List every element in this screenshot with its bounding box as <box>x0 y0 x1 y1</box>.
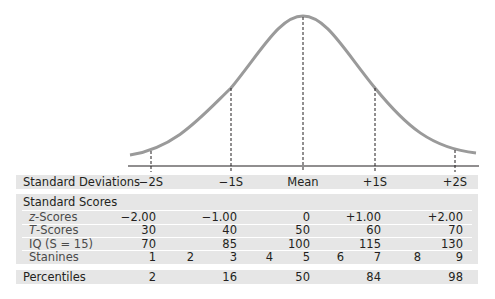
std-dev-value: −1S <box>201 176 261 189</box>
std-dev-value: Mean <box>273 176 333 189</box>
row-separator <box>22 224 472 225</box>
std-dev-value: −2S <box>121 176 181 189</box>
t-score-value: 70 <box>413 224 463 237</box>
percentile-value: 16 <box>187 271 237 284</box>
row-separator <box>22 210 472 211</box>
percentiles-label: Percentiles <box>23 271 86 284</box>
percentile-value: 50 <box>260 271 310 284</box>
t-score-value: 30 <box>106 224 156 237</box>
t-scores-label: T-Scores <box>29 224 78 237</box>
std-dev-value: +1S <box>345 176 405 189</box>
percentile-value: 2 <box>106 271 156 284</box>
t-score-value: 40 <box>187 224 237 237</box>
stanines-label: Stanines <box>29 251 79 264</box>
t-score-value: 60 <box>331 224 381 237</box>
standard-scores-heading: Standard Scores <box>23 196 117 209</box>
stanine-value: 9 <box>413 251 463 264</box>
percentile-value: 98 <box>413 271 463 284</box>
percentile-value: 84 <box>331 271 381 284</box>
std-dev-value: +2S <box>425 176 485 189</box>
t-score-value: 50 <box>260 224 310 237</box>
normal-curve-graphic <box>0 0 495 175</box>
